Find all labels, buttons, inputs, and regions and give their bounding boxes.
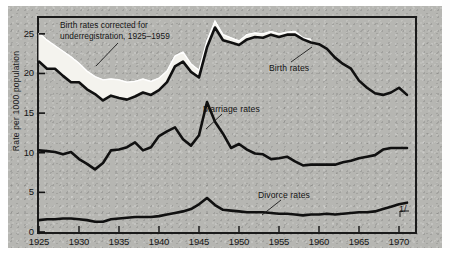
annotation-leader-line [291,47,312,62]
x-tick-label: 1930 [62,236,96,247]
chart-figure: Rate per 1000 population 0510152025 1925… [0,0,450,255]
series-label-birth-rates: Birth rates [269,63,309,73]
y-tick-label: 5 [12,186,34,197]
x-tick-label: 1965 [342,236,376,247]
y-tick-label: 20 [12,67,34,78]
footnote-marker: 1/ [399,204,407,214]
x-tick-label: 1950 [222,236,256,247]
x-tick-label: 1945 [182,236,216,247]
series-label-marriage-rates: Marriage rates [203,104,260,114]
annotation-birth-corrected: Birth rates corrected for underregistrat… [60,20,170,41]
x-tick-label: 1925 [22,236,56,247]
y-tick-label: 15 [12,107,34,118]
y-tick-label: 25 [12,28,34,39]
y-axis-title: Rate per 1000 population [11,41,21,161]
x-tick-label: 1935 [102,236,136,247]
x-tick-label: 1960 [302,236,336,247]
x-tick-label: 1940 [142,236,176,247]
y-tick-label: 10 [12,147,34,158]
series-label-divorce-rates: Divorce rates [258,190,310,200]
annotation-leader-line [96,43,118,66]
x-tick-label: 1955 [262,236,296,247]
series-line-divorce-rates [39,198,407,222]
x-tick-label: 1970 [382,236,416,247]
